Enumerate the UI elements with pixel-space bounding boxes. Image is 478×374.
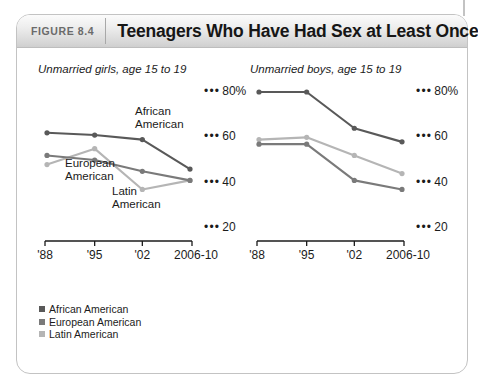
panel-boys-subtitle: Unmarried boys, age 15 to 19 (250, 63, 402, 75)
annotation-line-1: African (135, 105, 184, 118)
legend-label: European American (49, 316, 141, 329)
legend-label: Latin American (49, 328, 118, 341)
series-annotation-latin-american: LatinAmerican (112, 185, 161, 210)
figure-frame: FIGURE 8.4 Teenagers Who Have Had Sex at… (16, 14, 468, 374)
data-point (304, 142, 309, 147)
y-tick-60: •••60 (204, 129, 236, 143)
x-tick-label: 2006-10 (380, 248, 436, 262)
y-tick-label: 20 (222, 220, 235, 234)
x-tick-label: '02 (326, 248, 382, 262)
data-point (304, 135, 309, 140)
legend-swatch-icon (39, 319, 45, 325)
tick-leader-dots: ••• (416, 129, 432, 143)
figure-header: FIGURE 8.4 Teenagers Who Have Had Sex at… (17, 15, 467, 48)
tick-leader-dots: ••• (204, 84, 220, 98)
legend-swatch-icon (39, 331, 45, 337)
y-tick-20: •••20 (204, 220, 236, 234)
annotation-line-2: American (135, 118, 184, 131)
annotation-line-1: Latin (112, 185, 161, 198)
panel-girls: Unmarried girls, age 15 to 19 •••80%•••6… (27, 63, 239, 278)
plot-girls: •••80%•••60•••40•••20'88'95'022006-10Afr… (27, 81, 239, 278)
data-point (44, 130, 49, 135)
data-point (92, 132, 97, 137)
data-point (399, 187, 404, 192)
x-tick-label: '88 (229, 248, 285, 262)
y-tick-label: 40 (222, 175, 235, 189)
data-point (399, 139, 404, 144)
data-point (399, 171, 404, 176)
legend-item: European American (39, 316, 141, 329)
tick-leader-dots: ••• (416, 220, 432, 234)
series-annotation-african-american: AfricanAmerican (135, 105, 184, 130)
data-point (256, 89, 261, 94)
x-axis (45, 241, 192, 246)
y-tick-20: •••20 (416, 220, 448, 234)
chart-legend: African AmericanEuropean AmericanLatin A… (39, 303, 141, 341)
data-point (352, 153, 357, 158)
y-tick-label: 60 (434, 129, 447, 143)
y-tick-label: 20 (434, 220, 447, 234)
data-point (44, 153, 49, 158)
y-tick-40: •••40 (204, 175, 236, 189)
legend-item: Latin American (39, 328, 141, 341)
series-annotation-european-american: EuropeanAmerican (65, 157, 115, 182)
panel-girls-subtitle: Unmarried girls, age 15 to 19 (38, 63, 186, 75)
data-point (304, 89, 309, 94)
data-point (140, 137, 145, 142)
plot-boys: •••80%•••60•••40•••20'88'95'022006-10 (239, 81, 451, 278)
x-tick-label: '88 (17, 248, 73, 262)
x-axis (257, 241, 404, 246)
annotation-line-2: American (65, 170, 115, 183)
data-point (256, 142, 261, 147)
data-point (140, 169, 145, 174)
page-tab-stub (463, 0, 465, 16)
x-tick-label: '02 (114, 248, 170, 262)
y-tick-40: •••40 (416, 175, 448, 189)
data-point (187, 166, 192, 171)
panel-boys: Unmarried boys, age 15 to 19 •••80%•••60… (239, 63, 451, 278)
tick-leader-dots: ••• (416, 175, 432, 189)
data-point (187, 178, 192, 183)
y-tick-label: 80% (434, 84, 458, 98)
data-point (44, 162, 49, 167)
legend-label: African American (49, 303, 128, 316)
x-tick-label: 2006-10 (168, 248, 224, 262)
legend-swatch-icon (39, 306, 45, 312)
y-tick-label: 60 (222, 129, 235, 143)
tick-leader-dots: ••• (416, 84, 432, 98)
figure-number: FIGURE 8.4 (17, 25, 105, 37)
tick-leader-dots: ••• (204, 129, 220, 143)
tick-leader-dots: ••• (204, 220, 220, 234)
y-tick-80: •••80% (416, 84, 458, 98)
y-tick-60: •••60 (416, 129, 448, 143)
series-african-american (256, 89, 404, 144)
annotation-line-1: European (65, 157, 115, 170)
data-point (352, 178, 357, 183)
series-latin-american (256, 135, 404, 176)
figure-title: Teenagers Who Have Had Sex at Least Once (106, 21, 478, 42)
legend-item: African American (39, 303, 141, 316)
tick-leader-dots: ••• (204, 175, 220, 189)
data-point (92, 146, 97, 151)
data-point (352, 126, 357, 131)
data-point (256, 137, 261, 142)
y-tick-label: 40 (434, 175, 447, 189)
annotation-line-2: American (112, 198, 161, 211)
